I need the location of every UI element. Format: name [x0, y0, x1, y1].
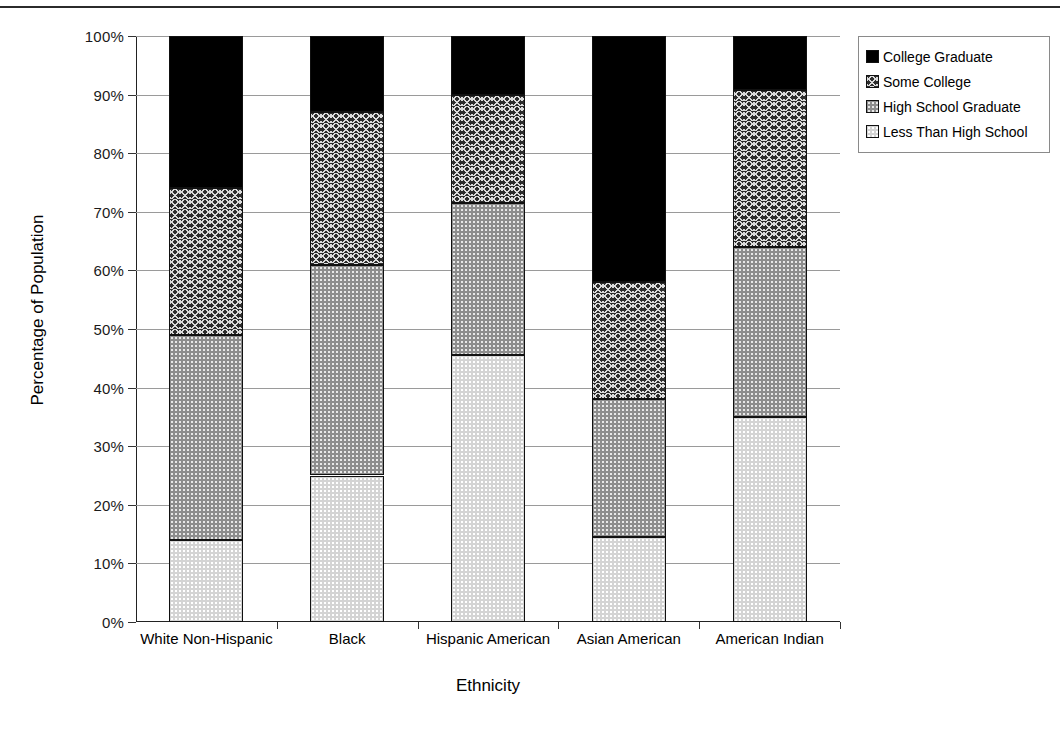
chart-legend: College GraduateSome CollegeHigh School …: [858, 36, 1050, 153]
y-axis-tick-label: 80%: [93, 145, 124, 162]
y-axis-tick-mark: [128, 212, 136, 213]
y-axis-tick-label: 0%: [102, 614, 124, 631]
y-axis-tick-label: 50%: [93, 321, 124, 338]
bar-stack[interactable]: [733, 36, 807, 622]
y-axis-tick-mark: [128, 36, 136, 37]
bar-segment-college-graduate[interactable]: [592, 36, 666, 282]
legend-swatch-icon: [866, 100, 879, 113]
x-axis-category-label: Asian American: [558, 630, 699, 647]
y-axis-tick-label: 10%: [93, 555, 124, 572]
legend-swatch-icon: [866, 50, 879, 63]
y-axis-tick-label: 70%: [93, 203, 124, 220]
y-axis-tick-mark: [128, 95, 136, 96]
legend-swatch-icon: [866, 75, 879, 88]
legend-item-label: Some College: [883, 75, 971, 89]
bar-segment-college-graduate[interactable]: [451, 36, 525, 95]
x-axis-tick-mark: [558, 622, 559, 629]
chart-page: Percentage of Population 100%90%80%70%60…: [0, 0, 1060, 732]
bar-segment-college-graduate[interactable]: [733, 36, 807, 90]
bar-segment-some-college[interactable]: [169, 188, 243, 335]
x-axis-category-label: Hispanic American: [418, 630, 559, 647]
x-axis-category-label: Black: [277, 630, 418, 647]
y-axis-tick-label: 40%: [93, 379, 124, 396]
legend-item[interactable]: Less Than High School: [866, 119, 1043, 144]
bar-segment-less-than-high-school[interactable]: [451, 355, 525, 622]
bar-segment-some-college[interactable]: [592, 282, 666, 399]
y-axis-tick-mark: [128, 563, 136, 564]
y-axis-title: Percentage of Population: [28, 100, 48, 520]
bar-segment-high-school-graduate[interactable]: [733, 247, 807, 417]
y-axis-tick-mark: [128, 153, 136, 154]
bar-segment-less-than-high-school[interactable]: [733, 417, 807, 622]
y-axis-tick-label: 60%: [93, 262, 124, 279]
x-axis-tick-mark: [699, 622, 700, 629]
bar-segment-less-than-high-school[interactable]: [310, 476, 384, 623]
bar-segment-high-school-graduate[interactable]: [592, 399, 666, 537]
x-axis-category-label: White Non-Hispanic: [136, 630, 277, 647]
y-axis-tick-mark: [128, 388, 136, 389]
bar-segment-high-school-graduate[interactable]: [169, 335, 243, 540]
x-axis-title: Ethnicity: [136, 676, 840, 696]
bar-segment-some-college[interactable]: [451, 95, 525, 203]
y-axis-tick-label: 20%: [93, 496, 124, 513]
legend-swatch-icon: [866, 125, 879, 138]
bar-segment-high-school-graduate[interactable]: [310, 265, 384, 476]
y-axis-tick-mark: [128, 329, 136, 330]
x-axis-tick-mark: [277, 622, 278, 629]
bar-stack[interactable]: [592, 36, 666, 622]
bar-segment-some-college[interactable]: [310, 112, 384, 264]
bar-stack[interactable]: [310, 36, 384, 622]
x-axis-tick-mark: [418, 622, 419, 629]
bar-segment-less-than-high-school[interactable]: [169, 540, 243, 622]
plot-area: [136, 36, 840, 622]
legend-item[interactable]: College Graduate: [866, 44, 1043, 69]
legend-item[interactable]: Some College: [866, 69, 1043, 94]
bar-segment-less-than-high-school[interactable]: [592, 537, 666, 622]
legend-item-label: College Graduate: [883, 50, 993, 64]
bar-segment-high-school-graduate[interactable]: [451, 203, 525, 355]
x-axis-tick-mark: [840, 622, 841, 629]
y-axis-tick-label: 100%: [85, 28, 124, 45]
y-axis-tick-mark: [128, 270, 136, 271]
bar-stack[interactable]: [451, 36, 525, 622]
legend-item-label: Less Than High School: [883, 125, 1028, 139]
bar-segment-college-graduate[interactable]: [169, 36, 243, 188]
bar-segment-some-college[interactable]: [733, 90, 807, 247]
page-top-rule: [0, 6, 1060, 8]
y-axis-tick-labels: 100%90%80%70%60%50%40%30%20%10%0%: [60, 36, 124, 622]
bar-stack[interactable]: [169, 36, 243, 622]
bar-segment-college-graduate[interactable]: [310, 36, 384, 112]
legend-item-label: High School Graduate: [883, 100, 1021, 114]
y-axis-tick-mark: [128, 505, 136, 506]
y-axis-tick-label: 30%: [93, 438, 124, 455]
legend-item[interactable]: High School Graduate: [866, 94, 1043, 119]
y-axis-tick-label: 90%: [93, 86, 124, 103]
y-axis-tick-mark: [128, 446, 136, 447]
x-axis-category-label: American Indian: [699, 630, 840, 647]
y-axis-tick-mark: [128, 622, 136, 623]
